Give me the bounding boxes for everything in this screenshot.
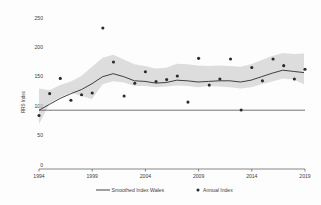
data-point [229, 57, 232, 60]
data-point [272, 57, 275, 60]
data-point [91, 91, 94, 94]
data-point [144, 70, 147, 73]
data-point [261, 79, 264, 82]
data-point [59, 77, 62, 80]
x-tick-label: 1994 [33, 173, 44, 179]
data-point [69, 99, 72, 102]
y-tick-label: 250 [35, 15, 44, 21]
data-point [282, 64, 285, 67]
legend-label-smoothed: Smoothed Index Wales [112, 187, 165, 193]
y-tick-label: 50 [37, 132, 43, 138]
data-point [250, 66, 253, 69]
chart-figure: 250 200 150 100 50 0 RRS Index 1994 [0, 0, 321, 205]
data-point [218, 77, 221, 80]
y-tick-label: 0 [40, 162, 43, 168]
y-axis-title: RRS Index [21, 90, 26, 113]
data-point [303, 68, 306, 71]
data-point [176, 74, 179, 77]
x-tick-label: 2014 [246, 173, 257, 179]
confidence-band [39, 53, 304, 124]
x-axis-ticks [39, 169, 305, 172]
data-point [133, 82, 136, 85]
data-point [154, 80, 157, 83]
data-point [293, 77, 296, 80]
x-axis-tick-labels: 1994 1999 2004 2009 2014 2019 [33, 173, 310, 179]
data-point [101, 26, 104, 29]
data-point [208, 84, 211, 87]
data-point [123, 94, 126, 97]
x-tick-label: 2009 [193, 173, 204, 179]
x-tick-label: 1999 [87, 173, 98, 179]
chart-legend: Smoothed Index Wales Annual Index [96, 187, 233, 193]
data-point [186, 101, 189, 104]
data-point [165, 78, 168, 81]
data-point [80, 93, 83, 96]
y-tick-label: 200 [35, 44, 44, 50]
data-point [37, 114, 40, 117]
data-point [112, 60, 115, 63]
data-point [197, 57, 200, 60]
x-tick-label: 2004 [140, 173, 151, 179]
legend-label-annual: Annual Index [203, 187, 233, 193]
data-point [48, 92, 51, 95]
data-point [240, 108, 243, 111]
x-tick-label: 2019 [299, 173, 310, 179]
y-tick-label: 150 [35, 73, 44, 79]
chart-canvas: 250 200 150 100 50 0 RRS Index 1994 [0, 0, 321, 205]
dot-glyph [197, 189, 200, 192]
